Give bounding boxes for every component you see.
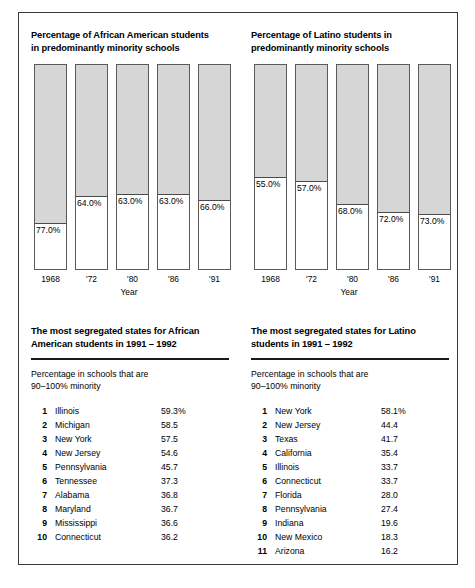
bar-fill [378, 65, 409, 213]
row-state-name: New York [55, 432, 92, 446]
row-rank: 10 [251, 530, 267, 544]
chart-title: Percentage of African American students … [31, 29, 231, 55]
x-tick-label: '86 [377, 273, 410, 286]
row-percentage: 44.4 [381, 418, 441, 432]
x-tick-label: '91 [418, 273, 451, 286]
row-state-name: Maryland [55, 502, 91, 516]
row-percentage: 45.7 [161, 460, 221, 474]
plot-area: 77.0%64.0%63.0%63.0%66.0% [31, 64, 227, 270]
row-percentage: 41.7 [381, 432, 441, 446]
bar-column: 63.0% [157, 64, 190, 270]
row-rank: 8 [31, 502, 47, 516]
row-rank: 6 [251, 474, 267, 488]
row-percentage: 36.6 [161, 516, 221, 530]
chart-african-american: Percentage of African American students … [31, 29, 231, 299]
table-african-american: The most segregated states for African A… [31, 325, 229, 544]
row-rank: 10 [31, 530, 47, 544]
x-tick-label: '72 [75, 273, 108, 286]
figure-frame: Percentage of African American students … [18, 12, 458, 565]
row-state-name: New Mexico [275, 530, 322, 544]
row-rank: 7 [251, 488, 267, 502]
row-state-name: Michigan [55, 418, 90, 432]
chart-title-line2: in predominantly minority schools [31, 42, 231, 55]
bar-value-label: 66.0% [200, 202, 224, 212]
bar-fill [117, 65, 148, 195]
bar-value-label: 57.0% [297, 183, 321, 193]
bar-column: 63.0% [116, 64, 149, 270]
row-rank: 1 [31, 404, 47, 418]
row-rank: 6 [31, 474, 47, 488]
bar-column: 68.0% [336, 64, 369, 270]
row-percentage: 35.4 [381, 446, 441, 460]
row-rank: 2 [251, 418, 267, 432]
table-title-line1: The most segregated states for Latino [251, 325, 449, 338]
row-rank: 7 [31, 488, 47, 502]
table-row: 10New Mexico18.3 [251, 530, 449, 544]
bar-fill [337, 65, 368, 205]
table-row: 1Illinois59.3% [31, 404, 229, 418]
bar-fill [158, 65, 189, 195]
x-tick-label: '86 [157, 273, 190, 286]
bar-fill [296, 65, 327, 182]
x-tick-label: '91 [198, 273, 231, 286]
table-subhead: Percentage in schools that are 90–100% m… [251, 368, 449, 393]
panel-african-american: Percentage of African American students … [19, 13, 239, 564]
row-rank: 9 [251, 516, 267, 530]
chart-title-line1: Percentage of African American students [31, 29, 231, 42]
table-subhead-line2: 90–100% minority [31, 380, 229, 393]
row-rank: 9 [31, 516, 47, 530]
row-rank: 4 [31, 446, 47, 460]
bar-column: 66.0% [198, 64, 231, 270]
table-row: 5Pennsylvania45.7 [31, 460, 229, 474]
table-row: 9Mississippi36.6 [31, 516, 229, 530]
plot-area: 55.0%57.0%68.0%72.0%73.0% [251, 64, 447, 270]
row-percentage: 27.4 [381, 502, 441, 516]
bar-column: 77.0% [34, 64, 67, 270]
table-header-rule [251, 358, 449, 360]
row-rank: 4 [251, 446, 267, 460]
row-state-name: Illinois [275, 460, 299, 474]
row-percentage: 36.2 [161, 530, 221, 544]
bar-fill [199, 65, 230, 201]
panel-latino: Percentage of Latino students in predomi… [239, 13, 459, 564]
row-state-name: Alabama [55, 488, 89, 502]
table-row: 7Alabama36.8 [31, 488, 229, 502]
chart-title-line1: Percentage of Latino students in [251, 29, 451, 42]
row-rank: 2 [31, 418, 47, 432]
table-row: 10Connecticut36.2 [31, 530, 229, 544]
bar-column: 64.0% [75, 64, 108, 270]
table-row: 5Illinois33.7 [251, 460, 449, 474]
x-tick-label: '80 [116, 273, 149, 286]
bar-column: 55.0% [254, 64, 287, 270]
row-rank: 8 [251, 502, 267, 516]
table-row: 3Texas41.7 [251, 432, 449, 446]
x-tick-label: '72 [295, 273, 328, 286]
table-row: 6Tennessee37.3 [31, 474, 229, 488]
row-percentage: 33.7 [381, 474, 441, 488]
row-state-name: Arizona [275, 544, 304, 558]
row-percentage: 33.7 [381, 460, 441, 474]
bar-fill [76, 65, 107, 197]
x-axis-ticks: 1968'72'80'86'91 [251, 273, 447, 286]
row-state-name: Texas [275, 432, 298, 446]
chart-latino: Percentage of Latino students in predomi… [251, 29, 451, 299]
table-row: 11Arizona16.2 [251, 544, 449, 558]
table-title: The most segregated states for African A… [31, 325, 229, 351]
row-rank: 3 [31, 432, 47, 446]
table-subhead-line1: Percentage in schools that are [251, 368, 449, 381]
x-axis-label: Year [31, 286, 227, 299]
table-row: 1New York58.1% [251, 404, 449, 418]
table-latino: The most segregated states for Latino st… [251, 325, 449, 558]
table-row: 4California35.4 [251, 446, 449, 460]
row-state-name: New Jersey [275, 418, 320, 432]
table-header-rule [31, 358, 229, 360]
table-subhead: Percentage in schools that are 90–100% m… [31, 368, 229, 393]
row-rank: 3 [251, 432, 267, 446]
table-row: 4New Jersey54.6 [31, 446, 229, 460]
bar-column: 73.0% [418, 64, 451, 270]
row-percentage: 59.3% [161, 404, 221, 418]
row-percentage: 58.1% [381, 404, 441, 418]
bar-fill [419, 65, 450, 215]
bar-column: 72.0% [377, 64, 410, 270]
bar-value-label: 73.0% [420, 216, 444, 226]
